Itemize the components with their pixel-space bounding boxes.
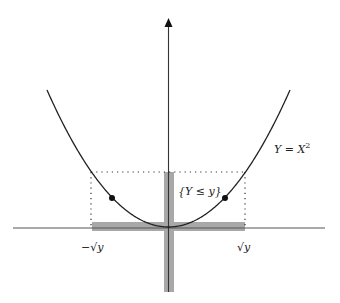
event-label: {Y ≤ y}: [178, 185, 222, 198]
diagram-svg: Y = X2 {Y ≤ y} −√y √y: [0, 0, 340, 303]
x-tick-label-left: −√y: [81, 241, 104, 254]
y-axis-arrowhead-icon: [165, 18, 173, 27]
curve-point-right: [222, 195, 228, 201]
curve-point-left: [109, 195, 115, 201]
diagram: Y = X2 {Y ≤ y} −√y √y: [0, 0, 340, 303]
x-tick-label-right: √y: [237, 241, 251, 254]
curve-equation-label: Y = X2: [274, 141, 310, 156]
